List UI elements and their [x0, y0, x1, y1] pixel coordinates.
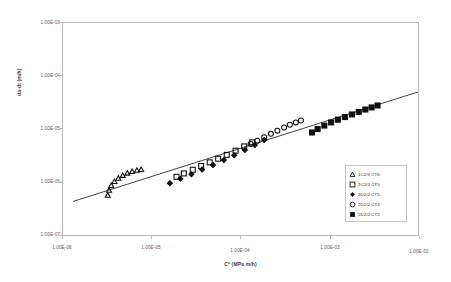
y-axis-title: da-dt (m/h) [16, 69, 22, 96]
data-point [298, 118, 303, 123]
y-axis-tick-label: 1.00E-03 [41, 20, 60, 25]
x-axis-tick-label: 1.00E-06 [52, 245, 71, 250]
legend-item-label: 2D2/2 CT4 [358, 202, 380, 207]
chart-container: 1.00E-03 1.00E-04 1.00E-05 1.00E-06 1.00… [0, 0, 451, 282]
data-point [125, 171, 130, 175]
legend-item-label: 1C2/3 CT5 [358, 182, 380, 187]
legend-item[interactable]: 1C2/3 CT6 [349, 169, 404, 179]
open-square-icon [349, 181, 356, 188]
x-axis-tick-label: 1.00E-02 [409, 249, 428, 254]
data-point [275, 128, 280, 133]
data-point [310, 130, 315, 135]
data-point [105, 193, 110, 197]
legend-item[interactable]: 2D2/2 CT2 [349, 209, 404, 219]
y-axis-tick-group: 1.00E-03 1.00E-04 1.00E-05 1.00E-06 1.00… [0, 0, 60, 282]
x-axis-tick-mark [419, 236, 420, 239]
data-point [356, 109, 361, 114]
x-axis-tick-label: 1.00E-04 [230, 248, 249, 253]
open-circle-icon [349, 201, 356, 208]
data-point [211, 162, 216, 167]
data-point [167, 181, 172, 186]
data-point [363, 107, 368, 112]
data-point [375, 103, 380, 108]
data-point [287, 122, 292, 127]
data-series [310, 103, 380, 135]
data-point [335, 117, 340, 122]
data-series [174, 140, 255, 179]
legend-item-label: 2D2/2 CT5 [358, 192, 380, 197]
x-axis-tick-label: 1.00E-03 [320, 245, 339, 250]
filled-diamond-icon [349, 191, 356, 198]
y-axis-tick-label: 1.00E-04 [41, 73, 60, 78]
legend-item-label: 2D2/2 CT2 [358, 212, 380, 217]
data-point [369, 105, 374, 110]
legend-item[interactable]: 1C2/3 CT5 [349, 179, 404, 189]
y-axis-tick-label: 1.00E-07 [41, 232, 60, 237]
filled-square-icon [349, 211, 356, 218]
y-axis-tick-label: 1.00E-05 [41, 126, 60, 131]
open-triangle-icon [349, 171, 356, 178]
data-point [248, 142, 253, 147]
legend-item[interactable]: 2D2/2 CT4 [349, 199, 404, 209]
x-axis-title: C* (MPa m/h) [62, 261, 419, 267]
data-point [221, 158, 226, 163]
x-axis-tick-mark [62, 236, 63, 239]
x-axis-tick-mark [240, 236, 241, 239]
chart-legend: 1C2/3 CT61C2/3 CT52D2/2 CT52D2/2 CT42D2/… [345, 165, 407, 222]
data-point [293, 120, 298, 125]
x-axis-tick-label: 1.00E-05 [141, 245, 160, 250]
data-point [342, 115, 347, 120]
legend-item[interactable]: 2D2/2 CT5 [349, 189, 404, 199]
data-point [268, 131, 273, 136]
data-point [139, 167, 144, 171]
data-point [216, 156, 221, 161]
x-axis-tick-mark [151, 236, 152, 239]
data-point [181, 171, 186, 176]
y-axis-tick-label: 1.00E-06 [41, 179, 60, 184]
data-point [329, 120, 334, 125]
data-point [322, 123, 327, 128]
data-point [282, 125, 287, 130]
data-point [255, 138, 260, 143]
data-point [349, 112, 354, 117]
x-axis-tick-mark [330, 236, 331, 239]
data-point [315, 127, 320, 132]
data-series [248, 118, 303, 147]
data-series [105, 167, 143, 197]
legend-item-label: 1C2/3 CT6 [358, 172, 380, 177]
